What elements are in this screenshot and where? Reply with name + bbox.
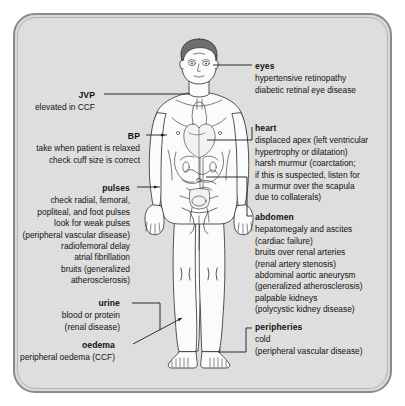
callout-abdomen-line-1: hepatomegaly and ascites [255,224,363,235]
leader-line-heart [207,127,252,140]
callout-peripheries-line-1: cold [255,334,363,345]
callout-oedema-line-1: peripheral oedema (CCF) [0,352,115,363]
callout-abdomen-line-2: (cardiac failure) [255,236,363,247]
callout-urine-line-2: (renal disease) [0,322,120,333]
callout-eyes: eyes hypertensive retinopathy diabetic r… [255,61,356,96]
callout-peripheries: peripheries cold (peripheral vascular di… [255,322,363,357]
leader-line-urine [132,303,160,330]
callout-abdomen-line-7: palpable kidneys [255,293,363,304]
callout-pulses: pulses check radial, femoral, popliteal,… [0,183,130,287]
callout-bp-line-2: check cuff size is correct [0,155,140,166]
callout-abdomen-line-3: bruits over renal arteries [255,247,363,258]
callout-abdomen-line-8: (polycystic kidney disease) [255,304,363,315]
callout-jvp-heading: JVP [0,90,95,101]
callout-pulses-line-6: atrial fibrillation [0,252,130,263]
callout-pulses-line-7: bruits (generalized [0,264,130,275]
callout-heart-line-3: harsh murmur (coarctation; [255,158,368,169]
callout-jvp: JVP elevated in CCF [0,90,95,114]
callout-urine-heading: urine [0,298,120,309]
callout-abdomen-heading: abdomen [255,212,363,223]
callout-pulses-line-1: check radial, femoral, [0,195,130,206]
callout-abdomen: abdomen hepatomegaly and ascites (cardia… [255,212,363,316]
callout-urine-line-1: blood or protein [0,310,120,321]
callout-heart-heading: heart [255,123,368,134]
callout-eyes-heading: eyes [255,61,356,72]
callout-abdomen-line-6: (generalized atherosclerosis) [255,281,363,292]
callout-heart-line-6: due to collaterals) [255,192,368,203]
leader-line-abdomen [206,177,252,216]
callout-eyes-line-2: diabetic retinal eye disease [255,85,356,96]
leader-line-peripheries [218,328,252,352]
diagram-page: eyes hypertensive retinopathy diabetic r… [0,0,405,406]
callout-peripheries-heading: peripheries [255,322,363,333]
callout-pulses-line-4: (peripheral vascular disease) [0,230,130,241]
callout-heart-line-1: displaced apex (left ventricular [255,135,368,146]
callout-jvp-line-1: elevated in CCF [0,102,95,113]
callout-abdomen-line-5: abdominal aortic aneurysm [255,270,363,281]
callout-heart: heart displaced apex (left ventricular h… [255,123,368,204]
callout-heart-line-4: if this is suspected, listen for [255,170,368,181]
callout-pulses-line-3: look for weak pulses [0,218,130,229]
callout-pulses-line-5: radiofemoral delay [0,241,130,252]
callout-oedema: oedema peripheral oedema (CCF) [0,340,115,364]
callout-oedema-heading: oedema [0,340,115,351]
callout-pulses-line-8: atherosclerosis) [0,275,130,286]
callout-peripheries-line-2: (peripheral vascular disease) [255,346,363,357]
callout-eyes-line-1: hypertensive retinopathy [255,73,356,84]
callout-pulses-heading: pulses [0,183,130,194]
callout-bp-line-1: take when patient is relaxed [0,143,140,154]
callout-bp-heading: BP [0,131,140,142]
callout-bp: BP take when patient is relaxed check cu… [0,131,140,166]
callout-urine: urine blood or protein (renal disease) [0,298,120,333]
callout-heart-line-2: hypertrophy or dilatation) [255,147,368,158]
callout-abdomen-line-4: (renal artery stenosis) [255,259,363,270]
leader-line-oedema [133,318,182,344]
callout-heart-line-5: a murmur over the scapula [255,181,368,192]
callout-pulses-line-2: popliteal, and foot pulses [0,207,130,218]
